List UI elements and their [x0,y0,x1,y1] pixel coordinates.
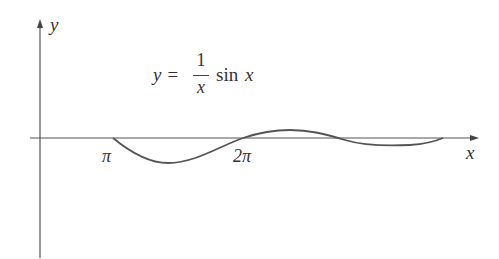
equation-lhs: y = [153,64,179,86]
tick-label-pi: π [102,146,111,167]
fraction-bar [193,75,209,76]
equation-numerator: 1 [193,50,209,71]
x-axis-arrow-icon [470,135,479,141]
x-axis-label: x [466,142,474,164]
tick-label-2pi: 2π [233,146,251,167]
equation-var: x [245,64,253,86]
equation-denominator: x [193,77,209,98]
y-axis-label: y [50,14,58,36]
y-axis-arrow-icon [37,19,43,28]
plot-canvas [0,0,499,259]
sinx-over-x-curve [113,130,443,163]
equation-sin: sin [216,64,238,86]
